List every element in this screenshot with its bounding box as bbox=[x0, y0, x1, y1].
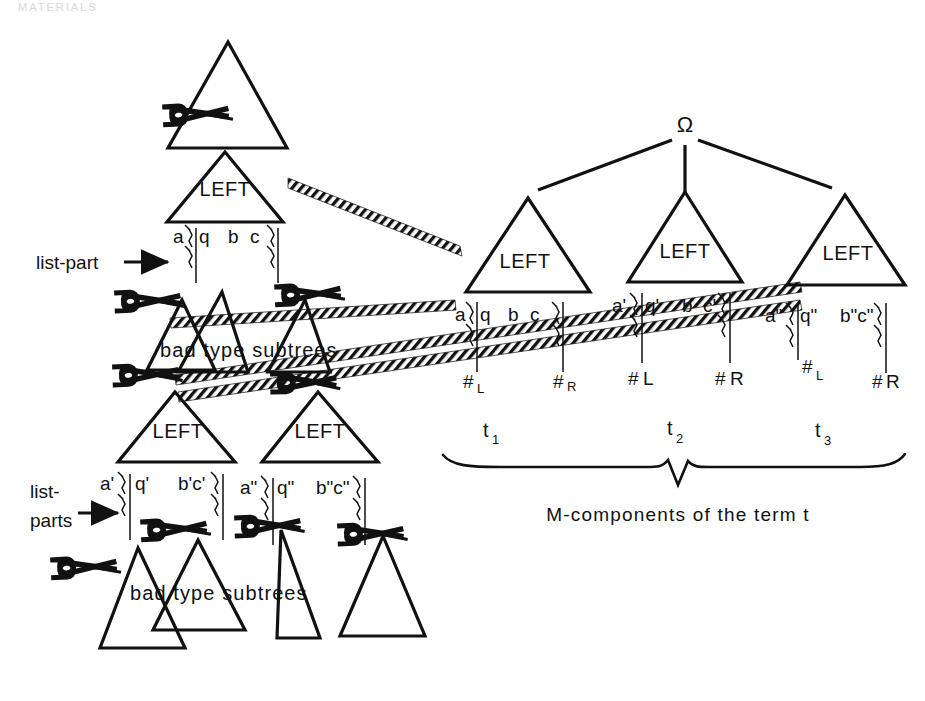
omega-root-symbol: Ω bbox=[677, 112, 693, 137]
component-2-marker-hash-R-sub: R bbox=[730, 368, 744, 389]
scissors-icon-mid-right bbox=[274, 283, 345, 305]
component-3-marker-hash-L-sub: L bbox=[816, 368, 823, 383]
component-1-triangle-label: LEFT bbox=[500, 250, 551, 272]
component-1-leaf-c: c bbox=[530, 304, 540, 325]
brace-caption: M-components of the term t bbox=[546, 504, 810, 525]
term-labels: t 1 t 2 t 3 bbox=[483, 417, 831, 448]
leaf-q-prime: q' bbox=[135, 473, 149, 494]
term-3: t bbox=[815, 419, 821, 441]
scissors-icon-bottom-4 bbox=[337, 523, 408, 543]
component-2-leaf-q-prime: q' bbox=[645, 295, 659, 316]
component-3-leaf-a-dprime: a" bbox=[765, 305, 782, 326]
left-low-a-label: LEFT bbox=[153, 420, 204, 442]
term-3-sub: 3 bbox=[824, 433, 831, 448]
leaf-a: a bbox=[173, 226, 184, 247]
component-1-marker-hash-L-sub: L bbox=[477, 381, 484, 396]
component-1-triangle bbox=[466, 198, 590, 292]
leaf-q-dprime: q" bbox=[277, 477, 294, 498]
component-1-leaf-b: b bbox=[508, 304, 519, 325]
connector-ribbon-top bbox=[288, 178, 462, 256]
connector-ribbons bbox=[170, 178, 802, 402]
term-1: t bbox=[483, 419, 489, 441]
list-part-annotation: list-part bbox=[36, 252, 168, 273]
component-1-marker-hash-L: # bbox=[463, 371, 474, 392]
list-part-label: list-part bbox=[36, 252, 99, 273]
term-2: t bbox=[667, 417, 673, 439]
diagram-svg: MATERIALS LEFT a q b c bbox=[0, 0, 925, 701]
component-3-marker-hash-L: # bbox=[802, 356, 813, 377]
leaf-b: b bbox=[228, 226, 239, 247]
leaf-q: q bbox=[199, 226, 210, 247]
left-root-leaf-row: a q b c bbox=[173, 225, 278, 283]
components-brace bbox=[443, 454, 905, 485]
scissors-icon-root bbox=[162, 103, 233, 125]
component-2: LEFT a' q' b c' # L # R bbox=[612, 192, 744, 389]
scissors-icon-bottom-1 bbox=[50, 556, 121, 578]
list-parts-label-line1: list- bbox=[30, 481, 60, 502]
component-2-marker-hash-L: # bbox=[628, 368, 639, 389]
bad-type-subtrees-upper-label: bad type subtrees bbox=[160, 339, 338, 361]
component-3-marker-hash-R: # bbox=[872, 371, 883, 392]
diagram-canvas: MATERIALS LEFT a q b c bbox=[0, 0, 925, 701]
leaf-c: c bbox=[250, 226, 260, 247]
page-header-fragment: MATERIALS bbox=[18, 1, 98, 13]
leaf-bc-prime: b'c' bbox=[178, 473, 205, 494]
leaf-a-dprime: a" bbox=[240, 477, 257, 498]
component-3-triangle-label: LEFT bbox=[823, 242, 874, 264]
scissors-icon-bottom-2 bbox=[140, 518, 211, 540]
scissors-icon-mid-left bbox=[114, 290, 185, 310]
component-1-leaf-q: q bbox=[480, 304, 491, 325]
component-1-marker-hash-R-sub: R bbox=[567, 379, 576, 394]
component-2-marker-hash-L-sub: L bbox=[643, 368, 654, 389]
leaf-a-prime: a' bbox=[100, 473, 114, 494]
component-2-leaf-c-prime: c' bbox=[703, 295, 716, 316]
left-root-triangle-label: LEFT bbox=[200, 178, 251, 200]
component-1-leaf-a: a bbox=[455, 304, 466, 325]
omega-edge-right bbox=[698, 140, 832, 188]
omega-edge-left bbox=[538, 140, 672, 190]
left-outer-root-triangle bbox=[168, 42, 287, 148]
scissors-icon-bottom-3 bbox=[234, 515, 305, 535]
component-3-leaf-bc-dprime: b"c" bbox=[840, 305, 874, 326]
component-3-marker-hash-R-sub: R bbox=[886, 371, 900, 392]
bad-type-subtrees-lower-label: bad type subtrees bbox=[130, 582, 308, 604]
left-panel: LEFT a q b c list-part bbox=[30, 42, 425, 648]
term-1-sub: 1 bbox=[492, 432, 499, 447]
component-3-triangle bbox=[787, 195, 905, 285]
component-2-marker-hash-R: # bbox=[715, 368, 726, 389]
leaf-bc-dprime: b"c" bbox=[316, 477, 350, 498]
component-2-leaf-b: b bbox=[682, 295, 693, 316]
list-parts-label-line2: parts bbox=[30, 510, 72, 531]
component-2-triangle-label: LEFT bbox=[660, 240, 711, 262]
term-2-sub: 2 bbox=[676, 431, 683, 446]
left-bad-subtree-lower-4 bbox=[340, 536, 425, 636]
component-2-leaf-a-prime: a' bbox=[612, 295, 626, 316]
component-1: LEFT a q b c # L # R bbox=[455, 198, 590, 396]
component-1-marker-hash-R: # bbox=[553, 371, 564, 392]
left-low-b-label: LEFT bbox=[295, 420, 346, 442]
component-3-leaf-q-dprime: q" bbox=[800, 305, 817, 326]
component-2-triangle bbox=[628, 192, 742, 282]
